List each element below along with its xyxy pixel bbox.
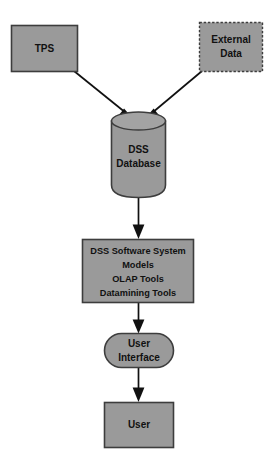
node-user-interface[interactable]: User Interface [105,334,174,368]
edge-database-to-software-arrowhead [133,225,145,240]
node-dss-software-system[interactable]: DSS Software System Models OLAP Tools Da… [83,240,194,303]
node-external-data-label-line2: Data [220,48,242,59]
node-tps-label: TPS [35,43,55,54]
edge-external-to-database [146,71,203,118]
node-user-interface-label-line2: Interface [118,352,160,363]
edge-tps-to-database-line [74,71,126,113]
node-dss-database-label-line1: DSS [128,144,149,155]
edge-external-to-database-line [152,71,202,113]
node-external-data[interactable]: External Data [200,23,263,72]
edge-tps-to-database [74,71,133,118]
node-dss-software-system-label-line1: DSS Software System [90,246,185,256]
dss-architecture-diagram: TPS External Data DSS Database DSS Softw… [0,0,274,454]
edge-database-to-software [133,197,145,239]
node-dss-software-system-label-line2: Models [122,260,154,270]
edge-user-interface-to-user [133,368,145,402]
node-tps[interactable]: TPS [12,26,78,72]
node-user-label: User [128,419,150,430]
diagram-canvas: TPS External Data DSS Database DSS Softw… [0,0,274,454]
node-dss-database-label-line2: Database [116,158,161,169]
edge-software-to-user-interface-arrowhead [133,320,145,334]
node-external-data-label-line1: External [211,34,251,45]
node-user[interactable]: User [105,403,174,448]
node-dss-database-top [112,112,166,130]
edge-user-interface-to-user-arrowhead [133,388,145,403]
node-dss-software-system-label-line4: Datamining Tools [100,288,176,298]
node-dss-software-system-label-line3: OLAP Tools [112,274,164,284]
edge-software-to-user-interface [133,303,145,334]
node-dss-database[interactable]: DSS Database [112,112,166,198]
node-user-interface-label-line1: User [128,338,150,349]
